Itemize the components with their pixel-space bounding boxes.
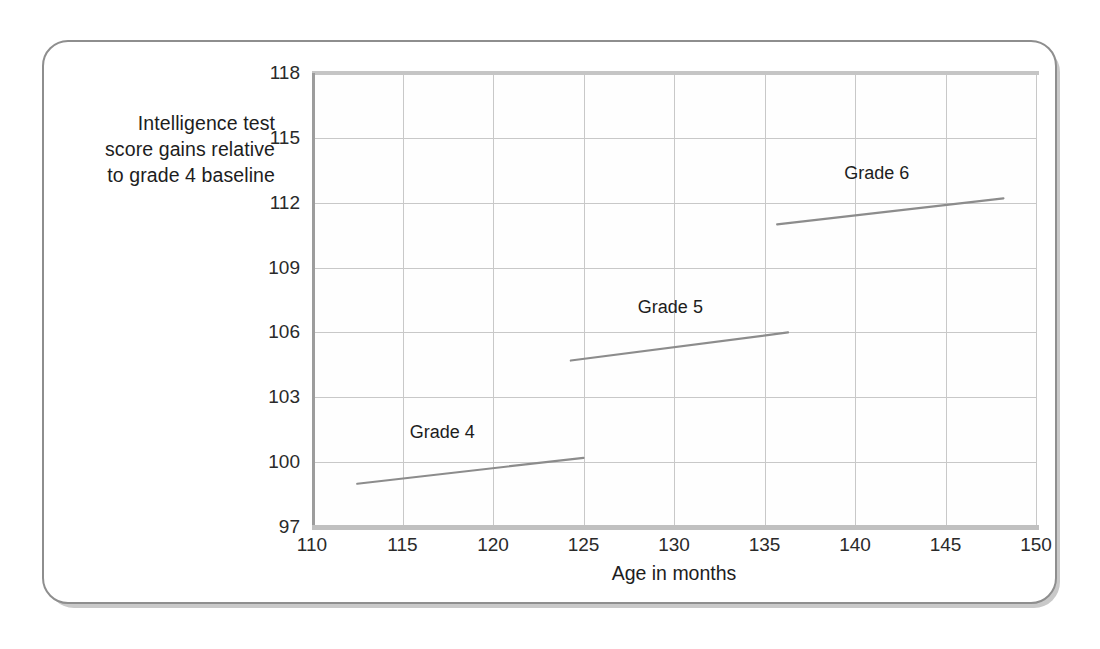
series-line: [357, 458, 583, 484]
series-label: Grade 5: [638, 297, 703, 318]
x-tick-label: 120: [453, 534, 533, 556]
x-tick-label: 110: [272, 534, 352, 556]
series-line: [777, 198, 1003, 224]
x-tick-label: 135: [725, 534, 805, 556]
figure-page: Intelligence test score gains relative t…: [0, 0, 1100, 649]
series-label: Grade 6: [844, 163, 909, 184]
y-axis-title: Intelligence test score gains relative t…: [60, 110, 275, 188]
y-tick-label: 112: [236, 192, 300, 214]
x-axis-title: Age in months: [312, 562, 1036, 585]
y-tick-label: 109: [236, 257, 300, 279]
x-tick-label: 115: [363, 534, 443, 556]
x-tick-label: 145: [906, 534, 986, 556]
y-tick-label: 118: [236, 62, 300, 84]
series-label: Grade 4: [410, 422, 475, 443]
x-tick-label: 130: [634, 534, 714, 556]
y-tick-label: 106: [236, 321, 300, 343]
y-tick-label: 103: [236, 386, 300, 408]
y-tick-label: 115: [236, 127, 300, 149]
x-tick-label: 150: [996, 534, 1076, 556]
x-tick-label: 125: [544, 534, 624, 556]
y-axis-title-line-3: to grade 4 baseline: [60, 162, 275, 188]
series-line: [571, 332, 788, 360]
y-tick-label: 100: [236, 451, 300, 473]
gridline-vertical: [1036, 73, 1037, 527]
x-tick-label: 140: [815, 534, 895, 556]
